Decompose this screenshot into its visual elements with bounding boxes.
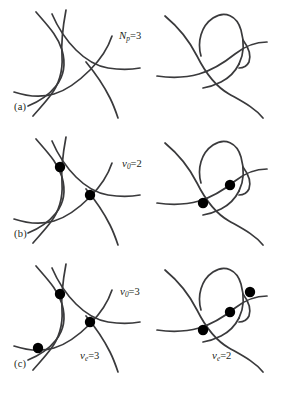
label-subscript: e [85, 354, 88, 363]
vertex-dot [198, 198, 208, 208]
panel-a-left: (a) [8, 0, 148, 128]
panel-label-a: (a) [14, 101, 26, 112]
triangle-curves-two-vertices-diagram [8, 127, 148, 255]
panel-c-right [155, 254, 295, 382]
figure-row-b: (b) v0=2 [0, 127, 295, 255]
curve-path [200, 268, 244, 318]
curve-path [157, 296, 267, 331]
label-value: 2 [137, 158, 142, 169]
label-value: 3 [136, 30, 141, 41]
curve-path [200, 14, 244, 64]
vertex-dot [225, 180, 235, 190]
loop-curves-three-vertices-diagram [155, 254, 295, 382]
vertex-dot [245, 287, 255, 297]
curve-path [14, 290, 112, 350]
label-subscript: 0 [127, 162, 131, 171]
vertex-dot [198, 325, 208, 335]
label-subscript: e [217, 354, 220, 363]
curve-path [14, 36, 112, 96]
curve-path [157, 169, 267, 204]
figure-root: (a) Np=3 [0, 0, 295, 394]
label-value: 3 [94, 350, 99, 361]
label-value: 2 [226, 350, 231, 361]
curve-path [33, 137, 66, 243]
curve-path [33, 264, 66, 370]
vertex-dot [225, 307, 235, 317]
figure-row-a: (a) Np=3 [0, 0, 295, 128]
curve-path [239, 294, 250, 322]
center-label-Np: Np=3 [119, 30, 141, 42]
center-label-v0-b: v0=2 [122, 158, 142, 170]
vertex-dot [55, 162, 65, 172]
curve-path [157, 42, 267, 77]
inline-label-ve-right: ve=2 [212, 350, 231, 362]
curve-path [14, 163, 112, 223]
vertex-dot [33, 343, 43, 353]
triangle-curves-three-vertices-diagram [8, 254, 148, 382]
vertex-dot [55, 289, 65, 299]
label-subscript: p [126, 34, 130, 43]
figure-row-c: (c) v0=3 ve=3 ve=2 [0, 254, 295, 382]
label-subscript: 0 [125, 290, 129, 299]
triangle-curves-diagram [8, 0, 148, 128]
inline-label-ve-left: ve=3 [80, 350, 99, 362]
panel-c-left: (c) [8, 254, 148, 382]
vertex-dot [85, 317, 95, 327]
loop-curves-two-vertices-diagram [155, 127, 295, 255]
panel-a-right [155, 0, 295, 128]
panel-b-right [155, 127, 295, 255]
loop-curves-diagram [155, 0, 295, 128]
panel-label-c: (c) [14, 358, 26, 369]
curve-path [239, 40, 250, 68]
curve-path [200, 141, 244, 191]
panel-b-left: (b) [8, 127, 148, 255]
panel-label-b: (b) [14, 228, 27, 239]
curve-path [239, 167, 250, 195]
label-value: 3 [135, 286, 140, 297]
curve-path [33, 10, 66, 116]
vertex-dot [85, 190, 95, 200]
center-label-v0-c: v0=3 [120, 286, 140, 298]
